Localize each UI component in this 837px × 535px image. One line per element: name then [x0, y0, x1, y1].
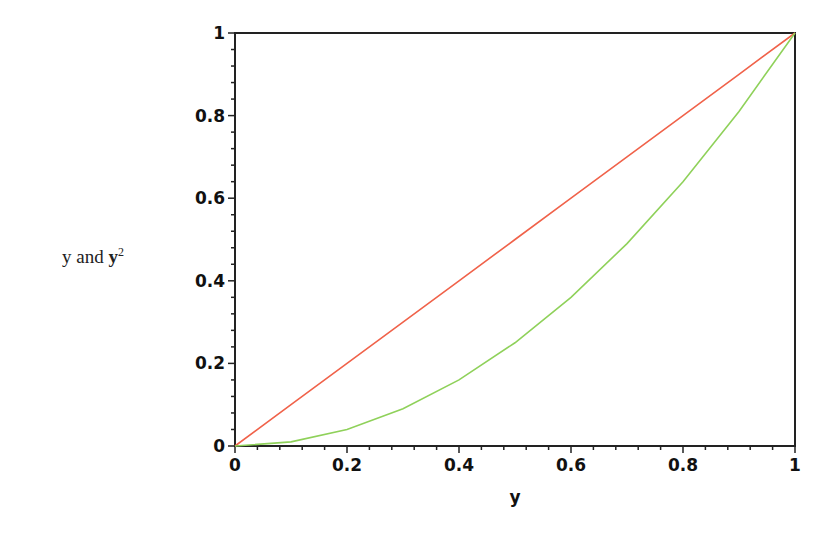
y-axis-label: y and y2 — [62, 245, 124, 268]
x-tick-label: 0.6 — [556, 455, 586, 475]
x-tick-label: 1 — [789, 455, 801, 475]
y-tick-label: 0 — [213, 436, 225, 456]
y-tick-label: 0.6 — [195, 188, 225, 208]
y-tick-label: 0.8 — [195, 106, 225, 126]
y-tick-label: 0.4 — [195, 271, 225, 291]
y-tick-label: 0.2 — [195, 353, 225, 373]
x-axis-label: y — [509, 487, 520, 507]
chart-canvas: 00.20.40.60.8100.20.40.60.81 y — [0, 0, 837, 535]
y-tick-label: 1 — [213, 23, 225, 43]
x-tick-label: 0.8 — [668, 455, 698, 475]
x-tick-label: 0 — [229, 455, 241, 475]
x-tick-label: 0.4 — [444, 455, 474, 475]
x-tick-label: 0.2 — [332, 455, 362, 475]
